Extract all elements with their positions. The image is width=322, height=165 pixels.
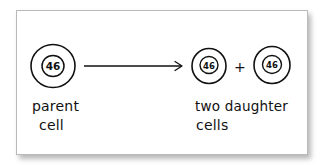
- daughter-cells-label-line2: cells: [196, 117, 228, 133]
- parent-cell-label-line1: parent: [32, 98, 79, 114]
- cell-division-diagram: 46 46 + 46 parent cell two daughter cell…: [0, 0, 322, 165]
- right-arrow-icon: [84, 62, 182, 71]
- parent-chromosome-count: 46: [46, 60, 61, 72]
- daughter-1-chromosome-count: 46: [203, 61, 215, 71]
- plus-sign: +: [234, 59, 246, 75]
- daughter-cells-label-line1: two daughter: [195, 98, 288, 114]
- daughter-2-chromosome-count: 46: [266, 60, 278, 70]
- parent-cell-label-line2: cell: [39, 117, 64, 133]
- parent-cell: 46: [31, 45, 75, 88]
- daughter-cell-2: 46: [254, 47, 290, 84]
- daughter-cell-1: 46: [192, 49, 226, 84]
